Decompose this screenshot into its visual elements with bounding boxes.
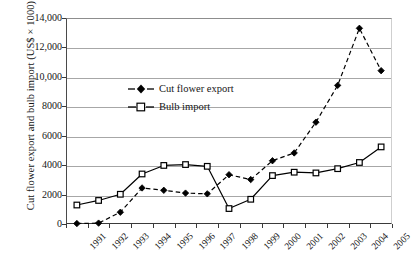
y-axis-tick-label: 0 — [2, 219, 62, 229]
x-axis-tick-mark — [392, 224, 393, 228]
gridline — [67, 137, 391, 138]
x-axis-tick-mark — [66, 224, 67, 228]
y-axis-tick-label: 4000 — [2, 160, 62, 170]
x-axis-tick-label: 1999 — [261, 231, 282, 252]
y-axis-tick-label: 8000 — [2, 101, 62, 111]
legend-label-cut-flower-export: Cut flower export — [159, 84, 234, 94]
x-axis-tick-label: 2004 — [370, 231, 391, 252]
legend-marker-filled-diamond-icon — [128, 83, 154, 95]
y-axis-tick-label: 12,000 — [2, 42, 62, 52]
x-axis-tick-mark — [262, 224, 263, 228]
x-axis-tick-label: 1998 — [240, 231, 261, 252]
x-axis-tick-mark — [305, 224, 306, 228]
x-axis-tick-label: 1992 — [109, 231, 130, 252]
x-axis-tick-mark — [153, 224, 154, 228]
legend-marker-open-square-icon — [128, 101, 154, 113]
legend-label-bulb-import: Bulb import — [159, 102, 210, 112]
x-axis-tick-mark — [175, 224, 176, 228]
y-axis-tick-label: 6000 — [2, 131, 62, 141]
gridline — [67, 48, 391, 49]
x-axis-tick-label: 1995 — [174, 231, 195, 252]
y-axis-tick-label: 10,000 — [2, 72, 62, 82]
x-axis-tick-label: 1996 — [196, 231, 217, 252]
x-axis-tick-label: 2005 — [392, 231, 412, 252]
x-axis-tick-mark — [131, 224, 132, 228]
x-axis-tick-label: 1991 — [87, 231, 108, 252]
x-axis-tick-mark — [283, 224, 284, 228]
x-axis-tick-mark — [349, 224, 350, 228]
x-axis-tick-mark — [196, 224, 197, 228]
gridline — [67, 196, 391, 197]
plot-area — [66, 18, 392, 224]
y-axis-tick-label: 14,000 — [2, 13, 62, 23]
x-axis-tick-mark — [218, 224, 219, 228]
x-axis-tick-label: 2001 — [305, 231, 326, 252]
x-axis-tick-label: 2003 — [348, 231, 369, 252]
legend-item-cut-flower-export: Cut flower export — [128, 80, 234, 98]
chart-legend: Cut flower export Bulb import — [128, 80, 234, 116]
y-axis-tick-label: 2000 — [2, 190, 62, 200]
x-axis-tick-mark — [88, 224, 89, 228]
x-axis-tick-mark — [109, 224, 110, 228]
gridline — [67, 166, 391, 167]
x-axis-tick-mark — [240, 224, 241, 228]
x-axis-tick-label: 1993 — [131, 231, 152, 252]
x-axis-tick-label: 1997 — [218, 231, 239, 252]
x-axis-tick-mark — [327, 224, 328, 228]
gridline — [67, 78, 391, 79]
x-axis-tick-label: 2002 — [326, 231, 347, 252]
legend-item-bulb-import: Bulb import — [128, 98, 234, 116]
x-axis-tick-label: 2000 — [283, 231, 304, 252]
x-axis-tick-mark — [370, 224, 371, 228]
x-axis-tick-label: 1994 — [153, 231, 174, 252]
